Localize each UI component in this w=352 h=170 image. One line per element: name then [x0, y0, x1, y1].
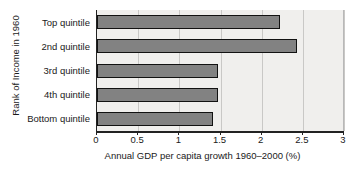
category-label-4th-quintile: 4th quintile: [5, 89, 90, 100]
bar: [97, 39, 297, 53]
category-label-top-quintile: Top quintile: [5, 17, 90, 28]
plot-frame-right-edge: [343, 10, 344, 131]
x-axis-title: Annual GDP per capita growth 1960–2000 (…: [60, 150, 345, 161]
x-tick-label: 1: [158, 134, 198, 145]
x-tick-label: 0.5: [117, 134, 157, 145]
plot-area: [96, 10, 344, 131]
x-tick-label: 2.5: [282, 134, 322, 145]
gridline: [303, 10, 304, 131]
x-tick-label: 0: [76, 134, 116, 145]
category-label-3rd-quintile: 3rd quintile: [5, 65, 90, 76]
bar: [97, 112, 213, 126]
category-label-list: Top quintile 2nd quintile 3rd quintile 4…: [8, 10, 93, 131]
bar-chart-figure: Rank of Income in 1960 Top quintile 2nd …: [0, 0, 352, 170]
category-label-2nd-quintile: 2nd quintile: [5, 41, 90, 52]
category-label-bottom-quintile: Bottom quintile: [5, 113, 90, 124]
bar: [97, 15, 280, 29]
gridline: [344, 10, 345, 131]
x-tick-label: 3: [323, 134, 352, 145]
bar: [97, 64, 218, 78]
x-tick-label: 2: [241, 134, 281, 145]
x-tick-label: 1.5: [200, 134, 240, 145]
bar: [97, 88, 218, 102]
